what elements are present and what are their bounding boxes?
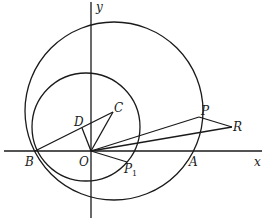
- y-axis-label: y: [95, 0, 103, 14]
- geometry-diagram: y x O B A C D P R P1: [0, 0, 266, 221]
- point-label-d: D: [73, 115, 84, 129]
- point-label-b: B: [24, 155, 34, 169]
- point-label-o: O: [79, 155, 89, 169]
- point-label-a: A: [188, 155, 198, 169]
- segment-od: [82, 128, 91, 151]
- point-label-r: R: [232, 120, 242, 134]
- point-label-c: C: [114, 101, 123, 115]
- segment-or: [91, 127, 232, 151]
- segment-pr: [199, 117, 232, 127]
- point-label-p1-subscript: 1: [132, 169, 137, 178]
- point-label-p1: P1: [123, 162, 137, 178]
- x-axis-label: x: [254, 155, 261, 169]
- segment-op1: [91, 151, 127, 162]
- point-label-p: P: [200, 104, 210, 118]
